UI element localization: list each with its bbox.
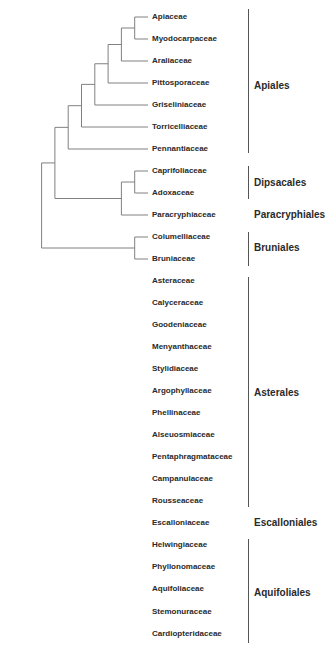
leaf-label: Myodocarpaceae <box>152 34 217 44</box>
order-label: Apiales <box>254 80 290 92</box>
order-label: Asterales <box>254 387 299 399</box>
leaf-label: Caprifoliaceae <box>152 166 207 176</box>
leaf-label: Goodeniaceae <box>152 320 207 330</box>
leaf-label: Griseliniaceae <box>152 100 206 110</box>
order-label: Aquifoliales <box>254 587 311 599</box>
leaf-label: Stylidiaceae <box>152 364 198 374</box>
leaf-label: Apiaceae <box>152 12 187 22</box>
leaf-label: Asteraceae <box>152 276 195 286</box>
leaf-label: Pennantiaceae <box>152 144 208 154</box>
leaf-label: Rousseaceae <box>152 496 203 506</box>
order-label: Bruniales <box>254 242 300 254</box>
leaf-label: Helwingiaceae <box>152 540 207 550</box>
leaf-label: Campanulaceae <box>152 474 213 484</box>
order-label: Dipsacales <box>254 177 306 189</box>
order-bracket <box>248 166 249 199</box>
leaf-label: Adoxaceae <box>152 188 194 198</box>
leaf-label: Phyllonomaceae <box>152 562 215 572</box>
leaf-label: Argophyllaceae <box>152 386 212 396</box>
leaf-label: Pentaphragmataceae <box>152 452 232 462</box>
order-bracket <box>248 9 249 153</box>
leaf-label: Pittosporaceae <box>152 78 209 88</box>
leaf-label: Phellinaceae <box>152 408 200 418</box>
order-bracket <box>248 277 249 507</box>
leaf-label: Stemonuraceae <box>152 607 212 617</box>
order-bracket <box>248 232 249 266</box>
leaf-label: Bruniaceae <box>152 254 195 264</box>
leaf-label: Columelliaceae <box>152 232 210 242</box>
leaf-label: Araliaceae <box>152 56 192 66</box>
leaf-label: Torricelliaceae <box>152 122 207 132</box>
order-label: Paracryphiales <box>254 209 325 221</box>
leaf-label: Paracryphiaceae <box>152 210 216 220</box>
order-bracket <box>248 539 249 643</box>
leaf-label: Aquifoliaceae <box>152 584 204 594</box>
leaf-label: Escalloniaceae <box>152 518 209 528</box>
order-label: Escalloniales <box>254 517 317 529</box>
tree-branches <box>42 17 148 259</box>
leaf-label: Cardiopteridaceae <box>152 629 222 639</box>
leaf-label: Menyanthaceae <box>152 342 212 352</box>
leaf-label: Alseuosmiaceae <box>152 430 215 440</box>
leaf-label: Calyceraceae <box>152 298 203 308</box>
